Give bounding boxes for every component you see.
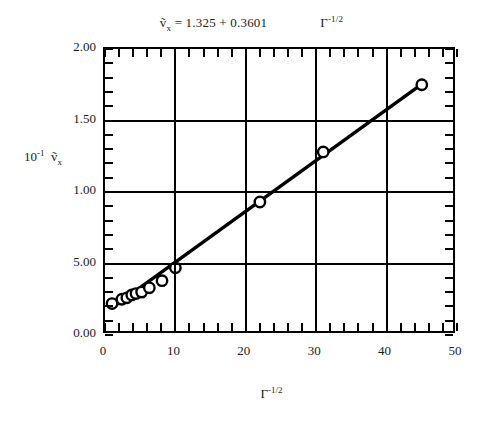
axis-tick (146, 323, 148, 331)
y-axis-tick-label: 1.00 (73, 182, 96, 198)
x-axis-title: Γ-1/2 (0, 385, 503, 402)
axis-tick (231, 49, 233, 57)
axis-tick (217, 49, 219, 57)
axis-tick (105, 334, 113, 336)
axis-tick (105, 320, 113, 322)
axis-tick (174, 323, 176, 331)
axis-tick (105, 220, 113, 222)
axis-tick (105, 91, 113, 93)
gridline-vertical (315, 49, 317, 331)
gridline-vertical (174, 49, 176, 331)
axis-tick (428, 49, 430, 57)
axis-tick (105, 105, 113, 107)
axis-tick (188, 323, 190, 331)
axis-tick (445, 191, 453, 193)
axis-tick (118, 49, 120, 57)
axis-tick (105, 148, 113, 150)
axis-tick (105, 248, 113, 250)
axis-tick (445, 120, 453, 122)
axis-tick (245, 49, 247, 57)
x-axis-tick-label: 0 (100, 343, 107, 359)
x-axis-title-symbol: Γ (260, 386, 268, 401)
axis-tick (259, 49, 261, 57)
title-equation-rhs: = 1.325 + 0.3601 (175, 15, 268, 30)
x-axis-tick-labels: 01020304050 (103, 343, 455, 363)
axis-tick (160, 49, 162, 57)
title-gamma-exponent: -1/2 (328, 14, 343, 24)
axis-tick (105, 205, 113, 207)
axis-tick (456, 323, 458, 331)
axis-tick (445, 220, 453, 222)
axis-tick (315, 323, 317, 331)
axis-tick (445, 234, 453, 236)
axis-tick (445, 320, 453, 322)
x-axis-title-exponent: -1/2 (268, 385, 283, 395)
axis-tick (442, 49, 444, 57)
axis-tick (105, 263, 113, 265)
y-axis-tick-label: 5.00 (73, 254, 96, 270)
data-point-marker (417, 80, 427, 90)
axis-tick (329, 49, 331, 57)
axis-tick (132, 323, 134, 331)
axis-tick (445, 62, 453, 64)
axis-tick (445, 105, 453, 107)
axis-tick (445, 91, 453, 93)
axis-tick (445, 263, 453, 265)
axis-tick (259, 323, 261, 331)
x-axis-tick-label: 10 (167, 343, 180, 359)
axis-tick (301, 323, 303, 331)
axis-tick (217, 323, 219, 331)
axis-tick (329, 323, 331, 331)
axis-tick (105, 120, 113, 122)
axis-tick (105, 305, 113, 307)
axis-tick (445, 148, 453, 150)
axis-tick (400, 323, 402, 331)
title-variable: ṽx (160, 15, 171, 30)
axis-tick (105, 62, 113, 64)
axis-tick (372, 323, 374, 331)
axis-tick (445, 205, 453, 207)
axis-tick (287, 49, 289, 57)
axis-tick (386, 49, 388, 57)
x-axis-tick-label: 40 (378, 343, 391, 359)
axis-tick (273, 323, 275, 331)
axis-tick (445, 334, 453, 336)
axis-tick (203, 49, 205, 57)
axis-tick (343, 49, 345, 57)
x-axis-tick-label: 30 (308, 343, 321, 359)
axis-tick (445, 162, 453, 164)
plot-area (103, 47, 455, 333)
axis-tick (456, 49, 458, 57)
gridline-vertical (386, 49, 388, 331)
axis-tick (372, 49, 374, 57)
axis-tick (160, 323, 162, 331)
axis-tick (231, 323, 233, 331)
axis-tick (414, 49, 416, 57)
axis-tick (174, 49, 176, 57)
gridline-horizontal (105, 191, 453, 193)
y-axis-tick-label: 0.00 (73, 325, 96, 341)
axis-tick (445, 134, 453, 136)
axis-tick (105, 234, 113, 236)
axis-tick (301, 49, 303, 57)
x-axis-tick-label: 20 (237, 343, 250, 359)
axis-tick (343, 323, 345, 331)
axis-tick (315, 49, 317, 57)
gridline-vertical (245, 49, 247, 331)
gridline-horizontal (105, 120, 453, 122)
y-axis-tick-label: 2.00 (73, 39, 96, 55)
gridline-horizontal (105, 263, 453, 265)
title-gamma: Γ (320, 15, 328, 30)
axis-tick (104, 323, 106, 331)
axis-tick (445, 177, 453, 179)
axis-tick (105, 177, 113, 179)
axis-tick (445, 291, 453, 293)
y-axis-tick-label: 1.50 (73, 111, 96, 127)
axis-tick (386, 323, 388, 331)
axis-tick (442, 323, 444, 331)
y-axis-tick-labels: 2.001.501.005.000.00 (38, 47, 96, 333)
data-point-marker (144, 283, 154, 293)
axis-tick (105, 291, 113, 293)
axis-tick (105, 162, 113, 164)
axis-tick (104, 49, 106, 57)
